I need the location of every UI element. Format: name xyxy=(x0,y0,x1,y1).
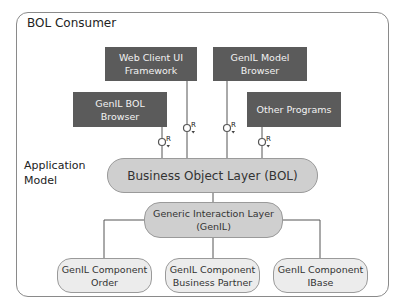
web-client-ui-framework-box: Web Client UI Framework xyxy=(105,47,197,81)
interface-r-label-model-browser: R xyxy=(231,121,236,129)
business-object-layer: Business Object Layer (BOL) xyxy=(107,158,318,193)
other-programs-box: Other Programs xyxy=(247,92,341,127)
genil-component-business-partner: GenIL Component Business Partner xyxy=(165,258,260,293)
genil-component-ibase: GenIL Component IBase xyxy=(273,258,368,293)
genil-model-browser-box: GenIL Model Browser xyxy=(213,47,307,81)
generic-interaction-layer: Generic Interaction Layer (GenIL) xyxy=(144,202,283,238)
genil-bol-browser-box: GenIL BOL Browser xyxy=(73,92,167,127)
interface-r-label-web-client: R xyxy=(191,121,196,129)
genil-component-order: GenIL Component Order xyxy=(57,258,152,293)
interface-r-label-bol-browser: R xyxy=(166,135,171,143)
interface-r-label-other-programs: R xyxy=(266,135,271,143)
